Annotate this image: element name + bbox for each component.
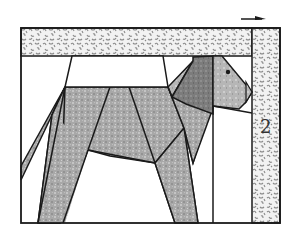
quilt-dog-diagram: 2	[0, 0, 301, 241]
piece-label: 2	[260, 116, 271, 137]
top-border-strip	[21, 28, 252, 56]
dog-eye-icon	[226, 70, 230, 74]
white-gap	[65, 56, 168, 87]
direction-arrow-icon	[241, 16, 266, 20]
